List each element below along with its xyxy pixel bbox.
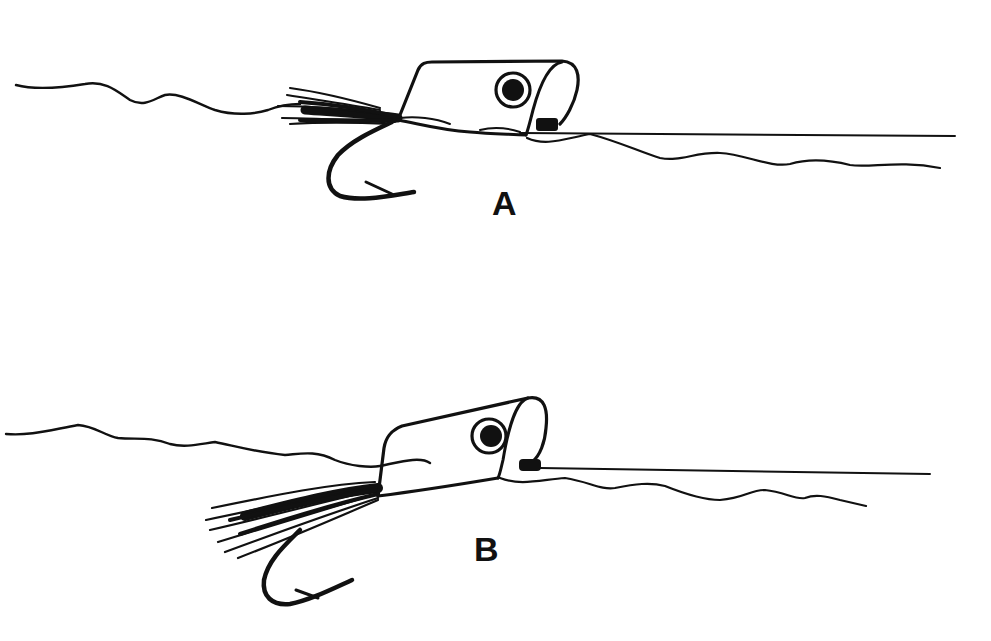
panel-b bbox=[6, 398, 930, 605]
panel-a bbox=[16, 61, 955, 199]
panel-label-b: B bbox=[474, 532, 499, 566]
eye-pupil-b bbox=[480, 425, 502, 447]
popper-bottom-a bbox=[398, 120, 526, 135]
water-surface-left-a bbox=[16, 83, 300, 114]
popper-bottom-b bbox=[378, 478, 498, 496]
water-surface-left-b bbox=[6, 425, 430, 467]
water-surface-right-b bbox=[500, 478, 866, 506]
eyelet-b bbox=[519, 459, 541, 471]
eyelet-a bbox=[536, 118, 558, 131]
tail-feathers-a bbox=[278, 88, 398, 124]
hook-a bbox=[329, 122, 415, 199]
water-surface-right-a bbox=[527, 134, 940, 168]
panel-label-a: A bbox=[492, 186, 517, 220]
eye-pupil-a bbox=[502, 79, 524, 101]
hook-barb-a bbox=[366, 182, 392, 194]
leader-line-b bbox=[540, 468, 930, 474]
tail-feathers-b bbox=[206, 482, 378, 558]
hook-barb-b bbox=[296, 590, 318, 598]
